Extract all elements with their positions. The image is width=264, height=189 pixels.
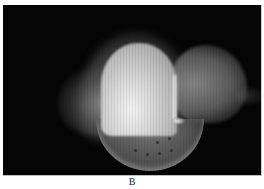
panel-label: B xyxy=(0,176,264,188)
crown-notch xyxy=(171,117,185,125)
right-lobe-tail xyxy=(235,87,262,105)
disc-dot xyxy=(168,137,171,140)
crown-edge-highlight xyxy=(171,75,178,123)
disc-dot xyxy=(170,149,173,152)
disc-dot xyxy=(158,152,161,155)
disc-dot xyxy=(156,141,159,144)
bright-crown xyxy=(101,43,177,136)
figure-image xyxy=(3,5,262,176)
right-lobe xyxy=(171,45,247,123)
disc-dot xyxy=(134,149,137,152)
disc-dot xyxy=(146,153,149,156)
